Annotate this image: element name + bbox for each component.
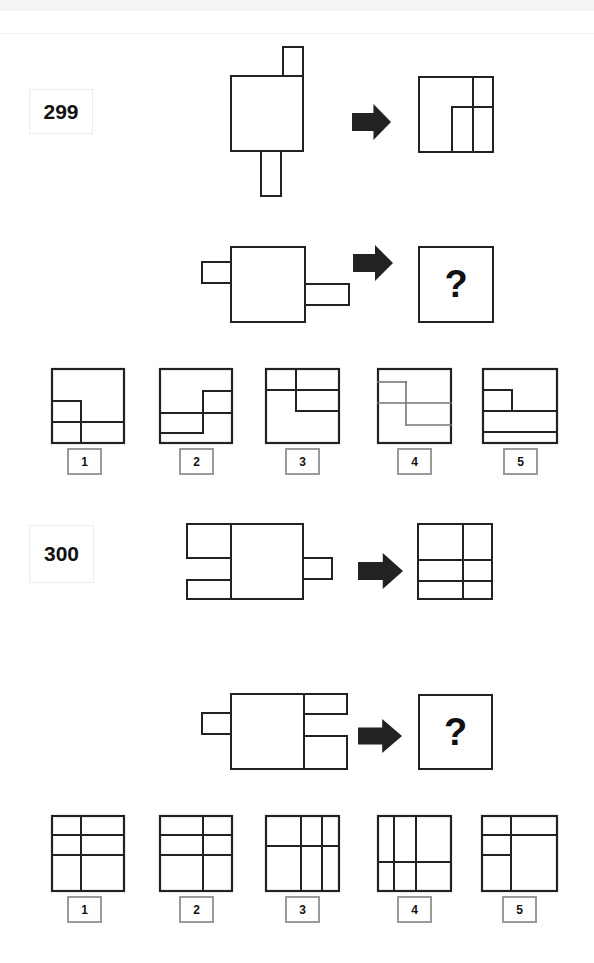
- arrow-icon: [353, 245, 393, 281]
- question-tab: [202, 713, 231, 734]
- question-tab: [305, 284, 349, 305]
- example-tab: [303, 558, 332, 579]
- option-figure-3: [266, 816, 339, 891]
- question-tab: [304, 736, 347, 769]
- arrow-icon: [352, 104, 391, 140]
- arrow-icon: [358, 553, 403, 589]
- example-tab: [261, 151, 281, 196]
- option-figure-2: [160, 369, 232, 443]
- question-main-square: [231, 694, 304, 769]
- answer-box: [419, 247, 493, 322]
- option-figure-1: [52, 369, 124, 443]
- question-tab: [304, 694, 347, 714]
- example-main-square: [231, 76, 303, 151]
- example-tab: [187, 580, 231, 599]
- answer-box: [419, 695, 492, 769]
- option-figure-4: [378, 369, 451, 443]
- example-result-square: [419, 77, 493, 152]
- question-tab: [202, 262, 231, 283]
- option-figure-4: [378, 816, 451, 891]
- example-result-square: [418, 524, 492, 599]
- question-main-square: [231, 247, 305, 322]
- option-figure-1: [52, 816, 124, 891]
- example-main-square: [231, 524, 303, 599]
- option-figure-5: [482, 816, 557, 891]
- puzzle-figures: [0, 0, 594, 963]
- example-tab: [187, 524, 231, 558]
- arrow-icon: [358, 719, 402, 753]
- example-tab: [283, 47, 303, 76]
- option-figure-3: [266, 369, 339, 443]
- option-figure-2: [160, 816, 232, 891]
